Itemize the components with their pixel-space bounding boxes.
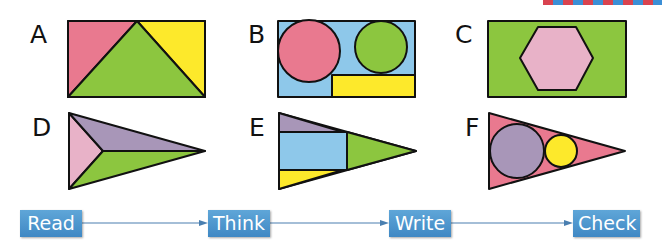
step-read-button[interactable]: Read: [20, 210, 82, 237]
shape-f: [489, 113, 625, 189]
step-think-button[interactable]: Think: [208, 210, 270, 237]
shapes-canvas: [0, 0, 662, 248]
step-write-button[interactable]: Write: [389, 210, 451, 237]
process-arrows: [82, 220, 573, 226]
shape-d: [69, 113, 205, 189]
shape-c: [488, 21, 626, 97]
shape-e: [279, 113, 416, 189]
step-check-button[interactable]: Check: [573, 210, 640, 237]
shape-b: [278, 20, 415, 97]
shape-a: [68, 21, 205, 97]
